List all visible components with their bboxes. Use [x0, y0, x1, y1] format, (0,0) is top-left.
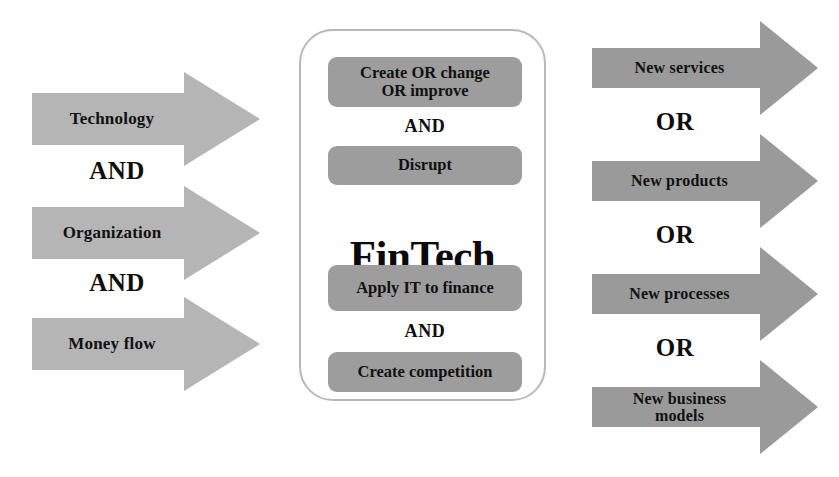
output-arrow-line-1: New products — [631, 172, 728, 189]
center-box-disrupt: Disrupt — [328, 146, 522, 185]
output-arrow-line-2: models — [655, 407, 704, 424]
center-connector-and-2: AND — [328, 316, 522, 346]
center-box-line-2: OR improve — [381, 82, 468, 100]
center-box-create-competition: Create competition — [328, 352, 522, 392]
output-arrow-new-business-models: New business models — [592, 360, 818, 454]
output-arrow-label: New business models — [592, 360, 767, 454]
center-panel: Create OR change OR improve AND Disrupt … — [299, 29, 546, 401]
input-arrow-money-flow: Money flow — [32, 297, 260, 391]
center-box-create-change-improve: Create OR change OR improve — [328, 57, 522, 107]
center-box-line-1: Create OR change — [360, 64, 490, 82]
output-arrow-line-1: New services — [635, 59, 725, 76]
center-box-apply-it-to-finance: Apply IT to finance — [328, 265, 522, 311]
fintech-diagram: Technology AND Organization AND Money fl… — [0, 0, 839, 477]
input-arrow-label: Money flow — [32, 297, 192, 391]
output-arrow-line-1: New business — [633, 390, 727, 407]
center-connector-and-1: AND — [328, 111, 522, 141]
output-arrow-line-1: New processes — [629, 285, 730, 302]
